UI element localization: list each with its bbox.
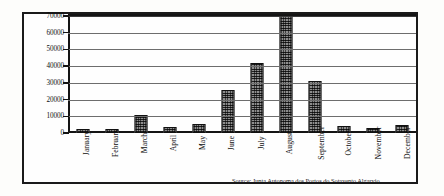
gridline — [68, 83, 416, 84]
y-axis-tick-mark — [63, 82, 69, 84]
x-axis-tick-label: November — [358, 136, 387, 154]
x-axis-tick-label-text: September — [317, 126, 326, 159]
x-axis-tick-label: August — [271, 136, 300, 154]
y-axis-tick-label: 0 — [8, 129, 64, 137]
y-axis-tick-label: 60000 — [8, 29, 64, 37]
bar — [192, 124, 205, 133]
x-axis-tick-label-text: July — [257, 136, 266, 149]
x-axis-tick-label-text: June — [227, 136, 236, 150]
bar — [134, 115, 147, 133]
gridline — [68, 33, 416, 34]
x-axis-tick-label: February — [97, 136, 126, 154]
y-axis-tick-mark — [63, 116, 69, 118]
x-axis-tick-label-text: August — [285, 132, 294, 155]
y-axis-tick-label: 10000 — [8, 112, 64, 120]
source-note: Source: Junta Autonoma dos Portos do Sot… — [232, 177, 432, 184]
x-axis-tick-label: September — [300, 136, 329, 154]
y-axis-tick-mark — [63, 49, 69, 51]
y-axis-tick-mark — [63, 99, 69, 101]
x-axis-tick-label: July — [242, 136, 271, 154]
chart-figure: 010000200003000040000500006000070000 Jan… — [0, 0, 444, 196]
x-axis-tick-label: March — [126, 136, 155, 154]
y-axis-tick-label: 50000 — [8, 45, 64, 53]
x-axis-tick-label: October — [329, 136, 358, 154]
x-axis-tick-label: December — [387, 136, 416, 154]
bar — [308, 81, 321, 133]
gridline — [68, 100, 416, 101]
x-axis-tick-label: June — [213, 136, 242, 154]
x-axis-tick-label-text: May — [198, 136, 207, 150]
gridline — [68, 66, 416, 67]
x-axis-tick-label-text: October — [343, 130, 352, 155]
y-axis-tick-mark — [63, 15, 69, 17]
x-axis-tick-label-text: April — [170, 135, 179, 152]
y-axis-tick-label: 70000 — [8, 12, 64, 20]
x-axis-tick-label-text: November — [374, 127, 383, 160]
y-axis-tick-label: 30000 — [8, 79, 64, 87]
y-axis-tick-mark — [63, 65, 69, 67]
x-axis-tick-label: May — [184, 136, 213, 154]
gridline — [68, 49, 416, 50]
x-axis-tick-label: April — [155, 136, 184, 154]
x-axis-tick-label: January — [68, 136, 97, 154]
x-axis-tick-label-text: February — [112, 129, 121, 157]
y-axis: 010000200003000040000500006000070000 — [4, 0, 64, 196]
bar — [221, 90, 234, 133]
x-axis-tick-label-text: January — [82, 131, 91, 155]
y-axis-tick-label: 20000 — [8, 96, 64, 104]
bar — [250, 63, 263, 133]
gridline — [68, 16, 416, 17]
y-axis-tick-mark — [63, 32, 69, 34]
x-axis-tick-label-text: March — [140, 133, 149, 153]
y-axis-tick-label: 40000 — [8, 62, 64, 70]
gridline — [68, 116, 416, 117]
x-axis-tick-label-text: December — [403, 127, 412, 159]
y-axis-tick-mark — [63, 132, 69, 134]
